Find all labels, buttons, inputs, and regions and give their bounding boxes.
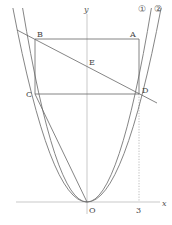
curve-2-label: ② [154,4,162,14]
y-axis-label: y [83,5,89,14]
x-tick-3: 3 [136,206,141,215]
x-axis-label: x [162,199,167,208]
parabola-diagram: y x O 3 ① ② A B C D E [0,0,172,225]
point-E-label: E [89,58,95,67]
point-C-label: C [26,90,32,99]
point-D-label: D [142,86,148,95]
segment-CO [35,94,87,202]
point-A-label: A [129,30,136,39]
diagram-canvas: y x O 3 ① ② A B C D E [0,0,172,225]
curve-1-label: ① [138,4,146,14]
point-B-label: B [37,30,43,39]
origin-label: O [89,206,96,215]
